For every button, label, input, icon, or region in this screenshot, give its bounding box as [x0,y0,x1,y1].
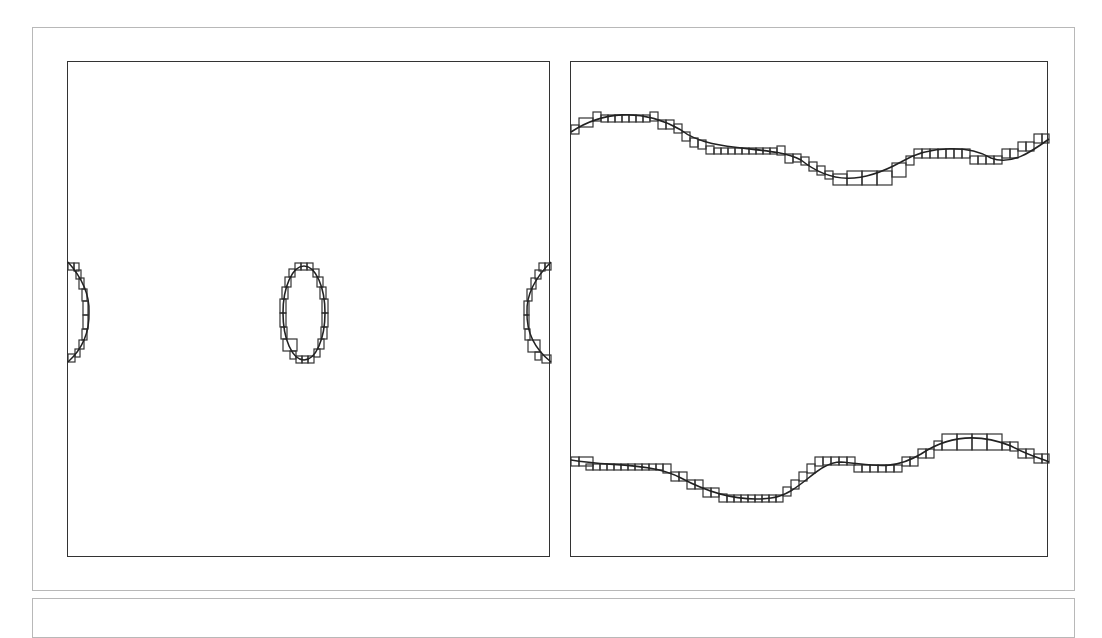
center-ellipse-cells [280,263,328,363]
right-panel-drawing [571,62,1049,558]
left-half-ellipse-cells [68,263,88,362]
left-panel [67,61,550,557]
center-ellipse-curve [283,266,325,360]
right-panel [570,61,1048,557]
left-panel-drawing [68,62,551,558]
upper-interface-cells [571,112,1049,185]
lower-interface-curve [571,438,1049,499]
right-half-ellipse-curve [527,262,551,362]
upper-interface-curve [571,115,1049,178]
lower-interface-cells [571,434,1049,502]
next-figure-frame [32,598,1075,638]
